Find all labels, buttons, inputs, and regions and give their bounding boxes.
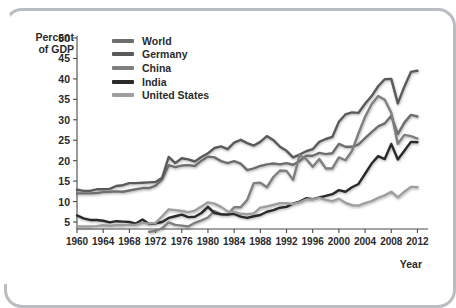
- legend-label: China: [142, 62, 171, 74]
- legend-item-china[interactable]: China: [112, 61, 209, 75]
- series-line-united-states: [77, 187, 417, 227]
- legend-item-germany[interactable]: Germany: [112, 48, 209, 62]
- legend-swatch-icon: [112, 66, 134, 70]
- legend-item-united-states[interactable]: United States: [112, 88, 209, 102]
- legend-label: United States: [142, 89, 209, 101]
- chart-legend: WorldGermanyChinaIndiaUnited States: [112, 34, 209, 102]
- legend-swatch-icon: [112, 52, 134, 56]
- legend-label: Germany: [142, 48, 188, 60]
- legend-swatch-icon: [112, 80, 134, 84]
- legend-label: India: [142, 76, 167, 88]
- series-line-world: [77, 115, 417, 194]
- legend-swatch-icon: [112, 39, 134, 43]
- legend-label: World: [142, 35, 172, 47]
- legend-item-world[interactable]: World: [112, 34, 209, 48]
- legend-item-india[interactable]: India: [112, 75, 209, 89]
- legend-swatch-icon: [112, 93, 134, 97]
